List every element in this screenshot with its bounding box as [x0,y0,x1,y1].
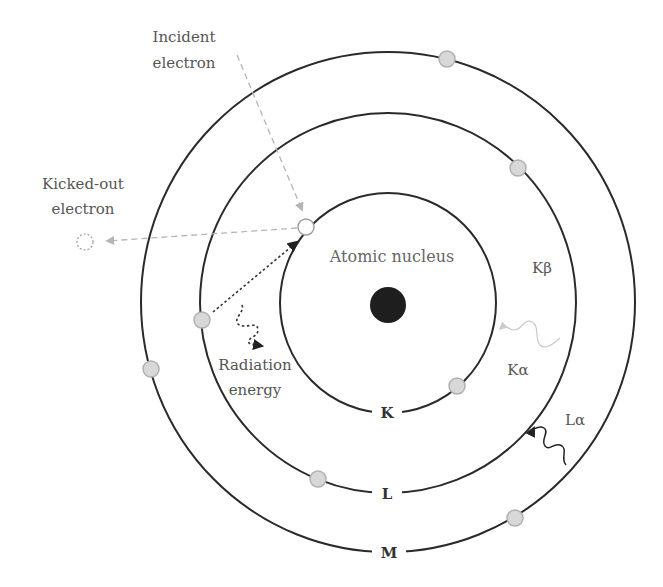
k-alpha-wave [500,321,560,347]
radiation-energy-wave [237,305,262,346]
electron-m [507,510,523,526]
shell-k-label: K [380,404,394,422]
radiation-energy-label-line2: energy [229,381,282,399]
atomic-nucleus-label: Atomic nucleus [329,247,454,266]
l-to-k-transition-arrow [213,242,297,312]
l-alpha-wave [534,427,566,465]
k-vacancy-electron [298,219,314,235]
k-alpha-label: Kα [507,361,528,379]
incident-electron-label-line1: Incident [153,28,216,46]
kicked-out-label-line1: Kicked-out [42,175,124,193]
incident-electron-label-line2: electron [153,54,216,72]
radiation-energy-label-line1: Radiation [218,356,292,374]
kicked-out-label-line2: electron [52,200,115,218]
electron-m [439,51,455,67]
atomic-nucleus [370,287,406,323]
electron-m [143,361,159,377]
electron-l [510,160,526,176]
kicked-out-arrow [107,228,297,241]
electron-l [310,471,326,487]
electron-l [194,312,210,328]
incident-electron-arrow [237,55,302,210]
k-beta-label: Kβ [532,259,552,277]
kicked-out-electron [77,234,93,250]
atom-diagram: K L M Atomic nucleus Incident electron K… [0,0,663,587]
l-alpha-label: Lα [565,411,585,429]
shell-l-label: L [382,485,393,503]
electron-k [449,378,465,394]
shell-m-label: M [381,544,398,562]
